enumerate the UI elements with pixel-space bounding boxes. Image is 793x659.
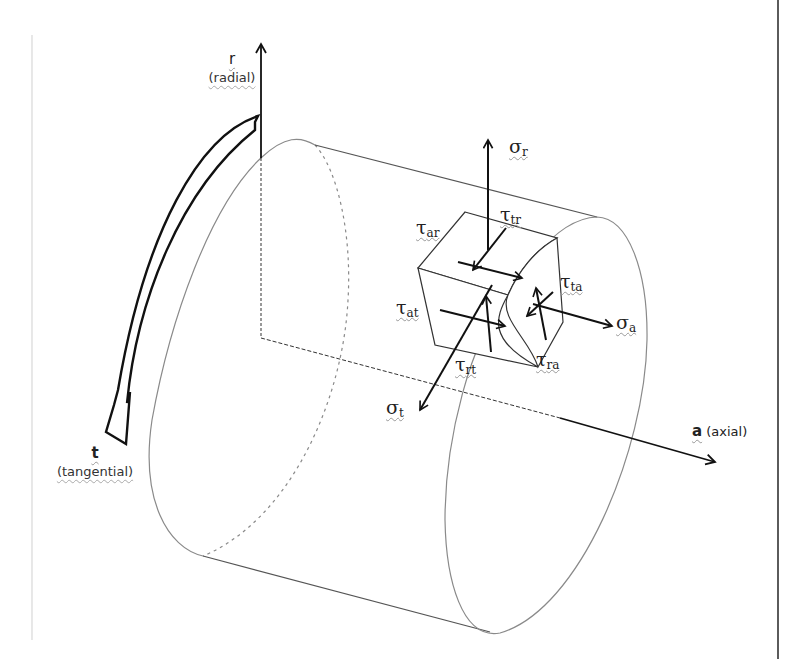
- cylinder-left-end-back: [203, 145, 349, 556]
- stress-diagram: [0, 0, 793, 659]
- tau-ra-label: τra: [536, 350, 559, 371]
- tau-tr-label: τtr: [500, 205, 521, 226]
- tau-ar-label: τar: [416, 218, 439, 239]
- cylinder-left-end-front: [149, 139, 315, 556]
- tangential-axis-label: t (tangential): [40, 446, 150, 478]
- tangential-arrow: [106, 116, 258, 444]
- cylinder: [149, 139, 647, 633]
- radial-text: (radial): [209, 70, 256, 85]
- tau-rt-label: τrt: [455, 355, 476, 376]
- tau-at-label: τat: [396, 298, 419, 319]
- radial-symbol: r: [229, 50, 235, 68]
- tangential-symbol: t: [91, 444, 98, 462]
- sigma-t-label: σt: [386, 398, 404, 419]
- axial-axis-label: a (axial): [692, 424, 747, 439]
- sigma-r-label: σr: [509, 137, 528, 158]
- axial-axis-hidden: [261, 338, 560, 418]
- sigma-a-label: σa: [616, 313, 636, 334]
- axial-symbol: a: [692, 422, 702, 440]
- cylinder-top-line: [315, 145, 597, 217]
- axial-text: (axial): [706, 424, 747, 439]
- cylinder-bottom-line: [203, 556, 490, 632]
- radial-axis-label: r (radial): [196, 52, 268, 84]
- tangential-text: (tangential): [57, 464, 133, 479]
- tau-ta-label: τta: [560, 272, 583, 293]
